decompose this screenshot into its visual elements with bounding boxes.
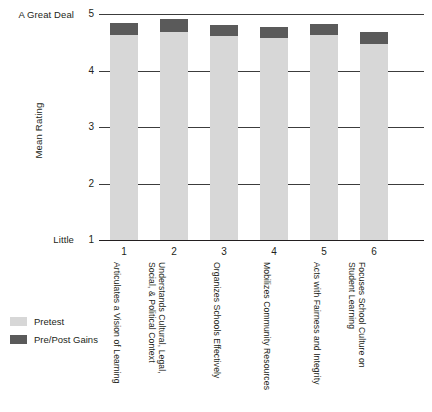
legend-swatch bbox=[10, 317, 27, 326]
category-label: Mobilizes Community Resources bbox=[262, 262, 272, 390]
bar-segment-pretest bbox=[210, 36, 238, 240]
category-label: Focuses School Culture on Student Learni… bbox=[347, 262, 367, 368]
legend-label: Pre/Post Gains bbox=[34, 334, 98, 345]
bar-group bbox=[310, 0, 338, 240]
x-tick-label-4: 4 bbox=[260, 246, 288, 257]
bar-segment-gains bbox=[260, 27, 288, 38]
category-label: Understands Cultural, Legal, Social, & P… bbox=[147, 262, 167, 374]
legend-item: Pre/Post Gains bbox=[10, 334, 130, 345]
bar-segment-gains bbox=[310, 24, 338, 35]
bar-group bbox=[260, 0, 288, 240]
bar-segment-gains bbox=[210, 25, 238, 36]
bar-group bbox=[110, 0, 138, 240]
category-label-wrap: Organizes Schools Effectively bbox=[210, 262, 238, 402]
bar-segment-gains bbox=[360, 32, 388, 44]
chart-legend: PretestPre/Post Gains bbox=[10, 316, 130, 352]
category-label-wrap: Focuses School Culture on Student Learni… bbox=[360, 262, 388, 402]
bar-segment-pretest bbox=[110, 35, 138, 240]
bar-segment-pretest bbox=[360, 44, 388, 240]
legend-swatch bbox=[10, 335, 27, 344]
x-tick-label-1: 1 bbox=[110, 246, 138, 257]
bar-segment-pretest bbox=[310, 35, 338, 240]
bar-group bbox=[360, 0, 388, 240]
bar-segment-gains bbox=[160, 19, 188, 32]
bar-segment-pretest bbox=[260, 38, 288, 240]
category-label: Acts with Fairness and Integrity bbox=[312, 262, 322, 385]
bar-group bbox=[210, 0, 238, 240]
bar-group bbox=[160, 0, 188, 240]
bar-segment-gains bbox=[110, 23, 138, 35]
x-tick-label-3: 3 bbox=[210, 246, 238, 257]
bar-segment-pretest bbox=[160, 32, 188, 240]
category-label-wrap: Acts with Fairness and Integrity bbox=[310, 262, 338, 402]
category-label-wrap: Mobilizes Community Resources bbox=[260, 262, 288, 402]
category-label: Organizes Schools Effectively bbox=[212, 262, 222, 378]
bar-chart: A Great Deal Little Mean Rating 12345 12… bbox=[0, 0, 432, 412]
category-label-wrap: Understands Cultural, Legal, Social, & P… bbox=[160, 262, 188, 402]
legend-item: Pretest bbox=[10, 316, 130, 327]
x-tick-label-5: 5 bbox=[310, 246, 338, 257]
legend-label: Pretest bbox=[34, 316, 64, 327]
x-tick-label-6: 6 bbox=[360, 246, 388, 257]
x-tick-label-2: 2 bbox=[160, 246, 188, 257]
